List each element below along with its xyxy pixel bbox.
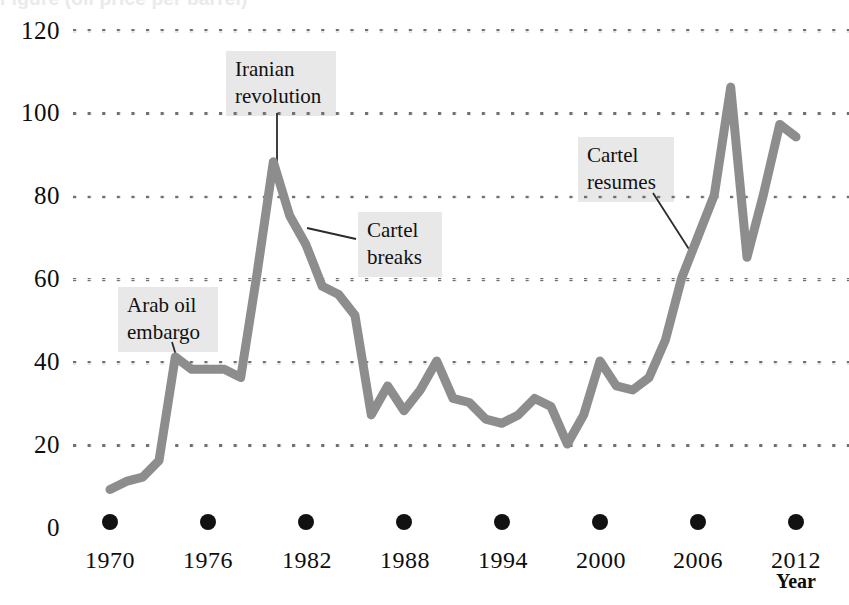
gridline-120	[66, 29, 849, 32]
gridline-60	[66, 278, 849, 281]
plot-area	[0, 0, 849, 605]
data-series-line	[110, 87, 796, 490]
chart-canvas: Figure (oil price per barrel) 120 100 80…	[0, 0, 849, 605]
x-tick-dot-1982	[298, 514, 314, 530]
gridline-20	[66, 444, 849, 447]
x-tick-dot-2006	[690, 514, 706, 530]
x-tick-dot-1988	[396, 514, 412, 530]
x-axis-tick-marks	[102, 514, 804, 530]
x-tick-dot-2012	[788, 514, 804, 530]
x-tick-dot-1976	[200, 514, 216, 530]
x-tick-dot-1994	[494, 514, 510, 530]
gridline-80	[66, 195, 849, 198]
leader-cartel-resumes	[653, 193, 694, 257]
x-tick-dot-1970	[102, 514, 118, 530]
leader-cartel-breaks	[307, 228, 356, 239]
x-tick-dot-2000	[592, 514, 608, 530]
